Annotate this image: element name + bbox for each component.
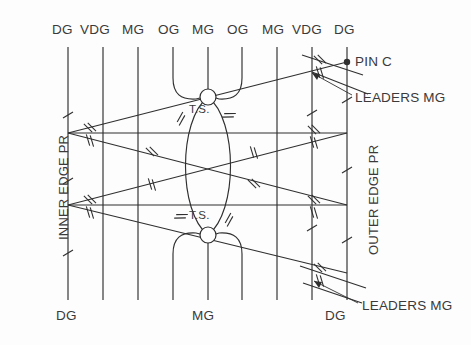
diagonal-strand-tail-top <box>302 55 363 75</box>
vertical-track-og-left <box>173 47 200 99</box>
pin-c-label: PIN C <box>355 54 392 69</box>
left-axis-label: INNER EDGE PR <box>56 135 71 240</box>
bottom-label-mg: MG <box>192 308 214 323</box>
diagram-canvas: DG VDG MG OG MG OG MG VDG DG INNER EDGE … <box>0 0 471 345</box>
top-label-dg-left: DG <box>52 22 73 37</box>
top-label-og-2: OG <box>227 22 248 37</box>
top-label-vdg-left: VDG <box>80 22 110 37</box>
top-label-mg-3: MG <box>262 22 284 37</box>
ts-node-circle-lower <box>200 227 216 243</box>
leaders-mg-top-label: LEADERS MG <box>355 90 446 105</box>
ts-label-lower: T.S. <box>189 209 210 221</box>
right-axis-label: OUTER EDGE PR <box>366 145 381 255</box>
bottom-label-dg-left: DG <box>56 308 77 323</box>
top-label-mg-2: MG <box>192 22 214 37</box>
top-label-vdg-right: VDG <box>292 22 322 37</box>
vertical-track-og-right <box>216 47 242 99</box>
pin-c-marker <box>344 59 350 65</box>
vertical-track-og-left-lower <box>173 233 200 300</box>
vertical-track-og-right-lower <box>216 233 242 300</box>
leaders-mg-bottom-label: LEADERS MG <box>362 298 453 313</box>
bottom-label-dg-right: DG <box>325 308 346 323</box>
ts-label-upper: T.S. <box>189 103 210 115</box>
vertical-track-group <box>68 47 347 300</box>
diagonal-strand-group <box>68 55 368 303</box>
leader-arrow-group <box>312 73 322 288</box>
top-label-dg-right: DG <box>334 22 355 37</box>
top-label-mg-1: MG <box>122 22 144 37</box>
top-label-og-1: OG <box>158 22 179 37</box>
